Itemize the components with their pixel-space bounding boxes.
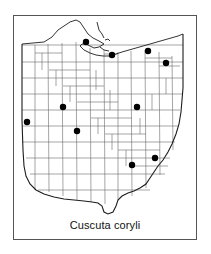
distribution-map-figure: Cuscuta coryli (0, 0, 211, 254)
species-caption: Cuscuta coryli (13, 219, 197, 231)
lake-erie-shoreline (22, 20, 183, 56)
occurrence-dot (109, 52, 115, 58)
occurrence-dot (152, 155, 158, 161)
ohio-county-map (0, 0, 211, 254)
occurrence-dot (145, 48, 151, 54)
occurrence-dot (83, 39, 89, 45)
occurrence-dot (129, 162, 135, 168)
occurrence-dot (60, 104, 66, 110)
county-lines-layer (22, 42, 183, 204)
occurrence-dot (134, 104, 140, 110)
occurrence-dot (163, 60, 169, 66)
occurrence-dot (24, 119, 30, 125)
occurrence-dot (74, 128, 80, 134)
